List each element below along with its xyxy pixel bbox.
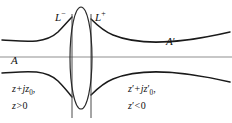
label-axis-right: A′ [166,36,175,47]
label-lens-left-sup: − [61,9,65,18]
beam-diagram-svg [0,0,232,123]
right-expr1-tail: , [153,83,156,94]
left-expr1-op: + [16,83,23,94]
right-expr2-value: 0 [141,100,146,111]
label-right-inequality: z′<0 [128,101,146,111]
left-expr2-op: > [16,100,23,111]
label-left-inequality: z>0 [12,101,28,111]
label-right-complex-coordinate: z′+jz′0, [128,84,156,97]
label-axis-left: A [11,55,18,66]
label-lens-left: L− [55,10,66,23]
label-lens-right: L+ [95,10,106,23]
figure-canvas: L− L+ A A′ z+jz0, z>0 z′+jz′0, z′<0 [0,0,232,123]
label-lens-right-sup: + [101,9,105,18]
label-axis-right-base: A [166,35,173,47]
lens-ellipse [70,7,92,109]
label-axis-right-prime: ′ [173,35,175,47]
left-expr1-tail: , [33,83,36,94]
left-expr2-value: 0 [23,100,28,111]
beam-envelope-lower-right [91,72,230,95]
beam-envelope-upper-right [91,19,230,42]
label-left-complex-coordinate: z+jz0, [12,84,35,97]
right-expr1-op: + [134,83,141,94]
right-expr2-op: < [134,100,141,111]
